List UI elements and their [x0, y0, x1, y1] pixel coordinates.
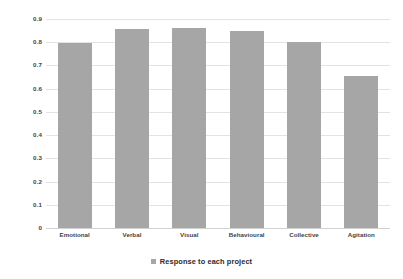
x-axis-tick-label: Collective	[289, 232, 319, 238]
y-axis-tick-label: 0.3	[8, 155, 42, 161]
bar[interactable]	[115, 29, 149, 228]
x-axis-tick-label: Verbal	[123, 232, 142, 238]
y-axis-tick-label: 0.5	[8, 109, 42, 115]
bar-slot	[161, 19, 218, 228]
bar[interactable]	[344, 76, 378, 228]
y-axis-tick-label: 0.2	[8, 178, 42, 184]
bar[interactable]	[287, 42, 321, 228]
y-axis-tick-label: 0.6	[8, 86, 42, 92]
bars	[46, 19, 390, 228]
plot-area	[46, 19, 390, 228]
bar-slot	[218, 19, 275, 228]
bar[interactable]	[58, 43, 92, 228]
x-axis-tick-label: Visual	[180, 232, 198, 238]
legend-swatch-icon	[151, 259, 156, 264]
y-axis-tick-label: 0.7	[8, 62, 42, 68]
y-axis-tick-label: 0.9	[8, 16, 42, 22]
chart-legend: Response to each project	[0, 258, 403, 265]
bar[interactable]	[230, 31, 264, 228]
bar-chart: 0.90.80.70.60.50.40.30.20.10 EmotionalVe…	[0, 0, 403, 279]
bar-slot	[275, 19, 332, 228]
legend-item-label: Response to each project	[160, 258, 252, 265]
x-axis-tick-label: Behavioural	[229, 232, 265, 238]
bar-slot	[103, 19, 160, 228]
y-axis-tick-label: 0.1	[8, 202, 42, 208]
y-axis-tick-label: 0.8	[8, 39, 42, 45]
bar-slot	[46, 19, 103, 228]
gridline	[46, 228, 390, 229]
bar-slot	[333, 19, 390, 228]
y-axis-tick-label: 0.4	[8, 132, 42, 138]
x-axis-tick-label: Emotional	[59, 232, 89, 238]
y-axis-tick-label: 0	[8, 225, 42, 231]
bar[interactable]	[172, 28, 206, 228]
x-axis-tick-label: Agitation	[348, 232, 375, 238]
